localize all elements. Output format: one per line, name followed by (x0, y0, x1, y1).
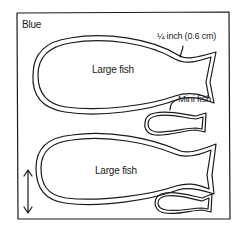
mini-fish-1-label: Mini fish (178, 93, 211, 104)
seam-allowance-label: ¼ inch (0.6 cm) (157, 31, 216, 41)
seam-allowance-pointer (180, 46, 183, 57)
color-label: Blue (22, 19, 41, 30)
large-fish-2-label: Large fish (95, 165, 137, 176)
grain-arrow-icon (24, 170, 32, 213)
large-fish-1-label: Large fish (92, 64, 134, 75)
